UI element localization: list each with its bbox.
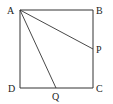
label-c: C — [96, 83, 103, 94]
label-a: A — [7, 5, 15, 16]
label-p: P — [96, 44, 102, 55]
segment-aq — [20, 10, 56, 88]
geometry-diagram: A B P C D Q — [0, 0, 113, 104]
square-abcd — [20, 10, 93, 88]
label-q: Q — [52, 91, 60, 102]
label-d: D — [8, 83, 15, 94]
segment-ap — [20, 10, 93, 49]
label-b: B — [96, 5, 103, 16]
